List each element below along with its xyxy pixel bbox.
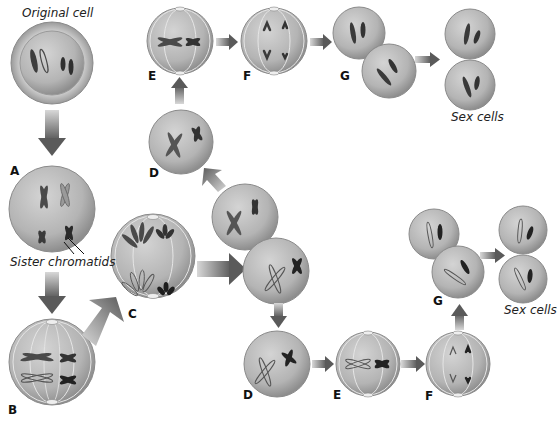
arrow-diagonal-icon [202, 168, 226, 192]
stage-label-c: C [128, 307, 137, 321]
arrow-down-icon [38, 272, 66, 314]
split-cell-lower [243, 238, 309, 304]
caption-original-cell: Original cell [22, 6, 93, 20]
arrow-right-icon [480, 248, 505, 263]
cell-b [9, 319, 95, 405]
cell-g-bottom [409, 209, 484, 298]
cell-f-bottom [426, 331, 490, 397]
cell-a [9, 166, 95, 254]
cell-d-bottom [244, 331, 310, 397]
cell-c [111, 214, 195, 299]
stage-label-g-bottom: G [433, 294, 443, 308]
arrow-right-icon [216, 34, 238, 50]
arrow-right-icon [197, 253, 246, 285]
arrow-up-icon [451, 304, 468, 330]
stage-label-a: A [10, 164, 19, 178]
caption-sister-chromatids: Sister chromatids [10, 255, 115, 269]
cell-g-top [333, 7, 416, 98]
arrow-right-icon [312, 356, 334, 372]
arrow-right-icon [401, 356, 425, 372]
original-cell [11, 22, 93, 104]
arrow-right-icon [415, 52, 440, 67]
arrow-up-icon [171, 77, 188, 104]
arrow-down-icon [270, 303, 287, 328]
stage-label-f-bottom: F [425, 389, 433, 403]
caption-sex-cells-top: Sex cells [451, 110, 504, 124]
stage-label-e-top: E [148, 69, 156, 83]
cell-e-bottom [336, 331, 400, 397]
sex-cells-top [445, 9, 495, 110]
stage-label-b: B [8, 403, 17, 417]
arrow-diagonal-icon [82, 297, 124, 346]
arrow-right-icon [310, 34, 332, 50]
cell-d-top [149, 110, 213, 174]
stage-label-f-top: F [243, 69, 251, 83]
stage-label-d-bottom: D [243, 388, 253, 402]
cell-f-top [241, 7, 307, 75]
stage-label-e-bottom: E [333, 388, 341, 402]
stage-label-d-top: D [149, 166, 159, 180]
arrow-down-icon [38, 110, 66, 156]
cell-e-top [147, 7, 213, 75]
stage-label-g-top: G [340, 69, 350, 83]
sex-cells-bottom [499, 206, 547, 303]
caption-sex-cells-bottom: Sex cells [504, 303, 557, 317]
